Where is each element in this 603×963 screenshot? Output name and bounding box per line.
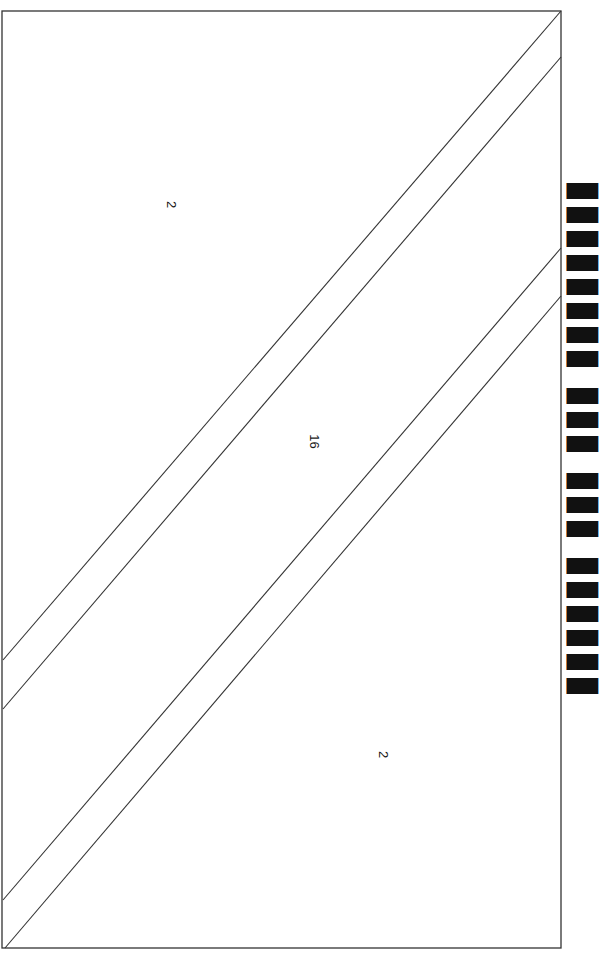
pattern-frame: [2, 11, 561, 948]
clipped-title: ▮▮▮▮▮▮▮▮ ▮▮▮ ▮▮▮ ▮▮▮▮▮▮: [566, 180, 603, 960]
diagonal-stripes: [3, 11, 561, 948]
stripe-line-3: [3, 248, 561, 900]
stripe-line-1: [3, 11, 561, 660]
stripe-line-4: [5, 296, 561, 948]
stripe-line-2: [3, 57, 561, 709]
region-number-label: 2: [165, 201, 178, 208]
region-number-label: 16: [308, 434, 321, 448]
region-number-label: 2: [377, 751, 390, 758]
